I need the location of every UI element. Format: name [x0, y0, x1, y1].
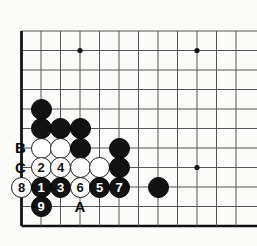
star-point: [77, 48, 82, 53]
black-stone: [109, 138, 130, 159]
black-stone: [148, 177, 169, 198]
move-number: 4: [57, 161, 64, 174]
move-number: 9: [37, 200, 44, 213]
black-stone: 5: [89, 177, 110, 198]
black-stone: 9: [31, 196, 52, 217]
black-stone: 1: [31, 177, 52, 198]
white-stone: 2: [31, 157, 52, 178]
move-number: 1: [37, 181, 44, 194]
go-board-diagram: 248136579 BCA: [0, 0, 257, 246]
black-stone: [31, 118, 52, 139]
black-stone: [70, 118, 91, 139]
move-number: 7: [115, 181, 122, 194]
white-stone: 4: [50, 157, 71, 178]
point-label-c: C: [15, 160, 26, 175]
move-number: 2: [37, 161, 44, 174]
move-number: 6: [76, 181, 83, 194]
move-number: 3: [57, 181, 64, 194]
white-stone: [31, 138, 52, 159]
black-stone: [31, 99, 52, 120]
move-number: 5: [96, 181, 103, 194]
black-stone: 3: [50, 177, 71, 198]
white-stone: 6: [70, 177, 91, 198]
point-label-b: B: [15, 140, 26, 155]
black-stone: 7: [109, 177, 130, 198]
white-stone: [70, 157, 91, 178]
black-stone: [50, 118, 71, 139]
move-number: 8: [18, 181, 25, 194]
point-label-a: A: [75, 199, 86, 214]
white-stone: [89, 157, 110, 178]
white-stone: 8: [11, 177, 32, 198]
black-stone: [109, 157, 130, 178]
star-point: [194, 165, 199, 170]
star-point: [194, 48, 199, 53]
black-stone: [70, 138, 91, 159]
white-stone: [50, 138, 71, 159]
